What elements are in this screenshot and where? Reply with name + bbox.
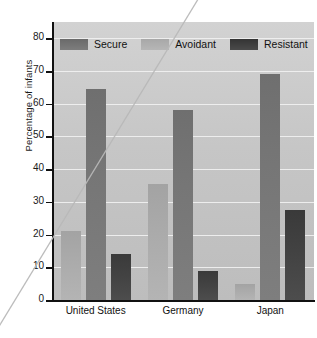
y-axis-tick-label: 80 <box>4 31 44 42</box>
y-axis-tick-label: 40 <box>4 162 44 173</box>
legend-swatch-secure <box>60 39 88 50</box>
y-axis-tick <box>46 202 52 204</box>
y-axis-tick <box>46 267 52 269</box>
y-axis-tick <box>46 38 52 40</box>
y-axis-tick <box>46 300 52 302</box>
bar-germany-secure <box>173 110 193 300</box>
bar-united-states-resistant <box>111 254 131 300</box>
bar-japan-avoidant <box>235 284 255 300</box>
bar-japan-secure <box>260 74 280 300</box>
gridline <box>52 71 314 72</box>
bar-japan-resistant <box>285 210 305 300</box>
x-axis-line <box>52 300 315 302</box>
y-axis-tick-label: 50 <box>4 129 44 140</box>
bar-germany-avoidant <box>148 184 168 300</box>
y-axis-tick-label: 20 <box>4 228 44 239</box>
y-axis-tick-label: 0 <box>4 293 44 304</box>
y-axis-tick <box>46 235 52 237</box>
y-axis-tick-label: 60 <box>4 97 44 108</box>
bar-united-states-avoidant <box>61 231 81 300</box>
x-axis-label-japan: Japan <box>227 305 314 316</box>
y-axis-tick <box>46 71 52 73</box>
bar-united-states-secure <box>86 89 106 300</box>
y-axis-line <box>52 22 54 301</box>
bar-chart-figure: Percentage of infants SecureAvoidantResi… <box>0 0 317 338</box>
legend-label-resistant: Resistant <box>264 38 308 50</box>
legend-item-secure: Secure <box>60 38 127 50</box>
legend-swatch-avoidant <box>141 39 169 50</box>
plot-area: SecureAvoidantResistant <box>52 22 314 300</box>
x-axis-label-united-states: United States <box>52 305 139 316</box>
y-axis-tick <box>46 104 52 106</box>
legend-label-avoidant: Avoidant <box>175 38 216 50</box>
legend-label-secure: Secure <box>94 38 127 50</box>
y-axis-tick-label: 10 <box>4 260 44 271</box>
legend-item-avoidant: Avoidant <box>141 38 216 50</box>
chart-legend: SecureAvoidantResistant <box>60 36 308 52</box>
y-axis-tick-label: 30 <box>4 195 44 206</box>
y-axis-tick <box>46 136 52 138</box>
legend-item-resistant: Resistant <box>230 38 308 50</box>
y-axis-tick <box>46 169 52 171</box>
bar-germany-resistant <box>198 271 218 300</box>
x-axis-label-germany: Germany <box>139 305 226 316</box>
legend-swatch-resistant <box>230 39 258 50</box>
y-axis-tick-label: 70 <box>4 64 44 75</box>
